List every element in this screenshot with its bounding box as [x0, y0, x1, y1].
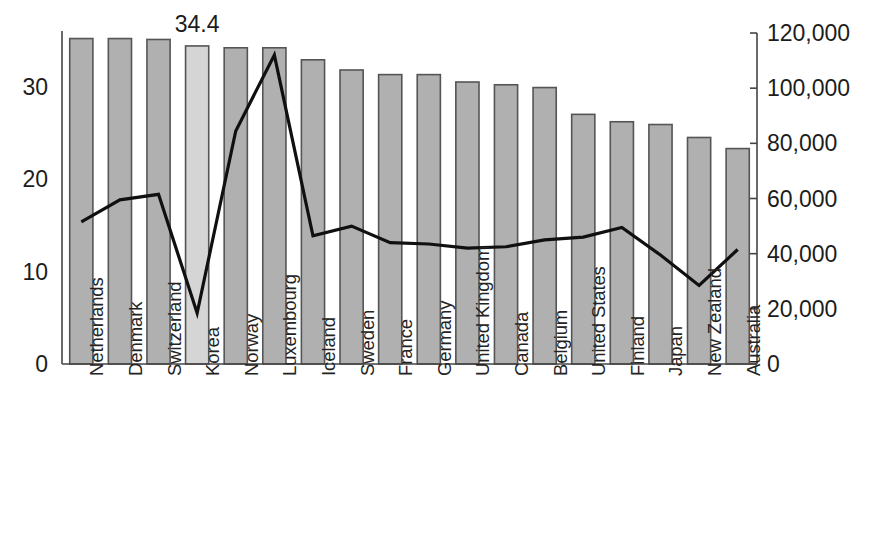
category-label-united-states: United States: [590, 266, 609, 376]
category-label-sweden: Sweden: [359, 310, 378, 376]
category-label-japan: Japan: [667, 326, 686, 376]
right-axis-tick-label: 120,000: [767, 22, 850, 45]
category-label-france: France: [397, 319, 416, 376]
category-label-canada: Canada: [513, 312, 532, 376]
data-label-korea: 34.4: [167, 13, 227, 36]
category-label-luxembourg: Luxembourg: [281, 274, 300, 376]
category-label-netherlands: Netherlands: [88, 277, 107, 376]
right-axis-tick-label: 100,000: [767, 77, 850, 100]
line-series: [81, 55, 737, 313]
category-label-belgium: Belgium: [552, 310, 571, 376]
right-axis-tick-label: 0: [767, 353, 780, 376]
category-label-germany: Germany: [436, 301, 455, 376]
category-label-denmark: Denmark: [127, 302, 146, 376]
left-axis-tick-label: 0: [0, 353, 48, 376]
category-label-australia: Australia: [745, 305, 764, 376]
category-label-finland: Finland: [629, 316, 648, 376]
category-label-switzerland: Switzerland: [166, 281, 185, 376]
chart-plot-area: [0, 0, 877, 545]
category-label-iceland: Iceland: [320, 317, 339, 376]
right-axis-tick-label: 80,000: [767, 132, 837, 155]
left-axis-tick-label: 30: [0, 76, 48, 99]
category-label-norway: Norway: [243, 314, 262, 376]
category-label-korea: Korea: [204, 327, 223, 376]
category-label-new-zealand: New Zealand: [706, 268, 725, 376]
category-label-united-kingdom: United Kingdom: [474, 246, 493, 376]
right-axis-tick-label: 60,000: [767, 188, 837, 211]
chart-figure: 0102030020,00040,00060,00080,000100,0001…: [0, 0, 877, 545]
left-axis-tick-label: 10: [0, 261, 48, 284]
right-axis-tick-label: 40,000: [767, 243, 837, 266]
left-axis-tick-label: 20: [0, 168, 48, 191]
right-axis-tick-label: 20,000: [767, 298, 837, 321]
